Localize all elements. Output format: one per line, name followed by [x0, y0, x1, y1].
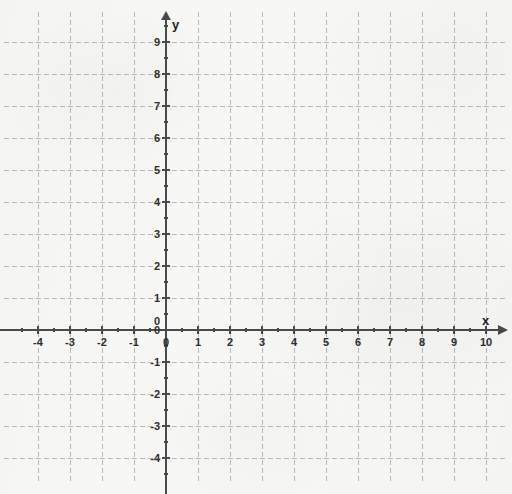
y-tick-label: -1 — [150, 357, 160, 368]
x-tick-label: -1 — [129, 337, 139, 348]
x-tick-label: 10 — [480, 337, 492, 348]
y-tick-label: -2 — [150, 389, 160, 400]
x-tick-label: -4 — [33, 337, 43, 348]
tick-labels-layer: x y -4-3-2-1012345678910-4-3-2-101234567… — [0, 0, 512, 494]
x-tick-label: 2 — [227, 337, 233, 348]
x-tick-label: 0 — [163, 337, 169, 348]
x-tick-label: 3 — [259, 337, 265, 348]
x-axis-label: x — [482, 314, 489, 327]
y-tick-label: 9 — [154, 37, 160, 48]
y-tick-label: 8 — [154, 69, 160, 80]
y-tick-label: 4 — [154, 197, 160, 208]
origin-label: 0 — [154, 316, 160, 327]
x-tick-label: 6 — [355, 337, 361, 348]
y-tick-label: 7 — [154, 101, 160, 112]
x-tick-label: 7 — [387, 337, 393, 348]
x-tick-label: 8 — [419, 337, 425, 348]
y-axis-label: y — [172, 18, 179, 31]
y-tick-label: 1 — [154, 293, 160, 304]
x-tick-label: 1 — [195, 337, 201, 348]
y-tick-label: 3 — [154, 229, 160, 240]
x-tick-label: 5 — [323, 337, 329, 348]
x-tick-label: 9 — [451, 337, 457, 348]
y-tick-label: -3 — [150, 421, 160, 432]
y-tick-label: 2 — [154, 261, 160, 272]
coordinate-grid-figure: x y -4-3-2-1012345678910-4-3-2-101234567… — [0, 0, 512, 494]
x-tick-label: -3 — [65, 337, 75, 348]
x-tick-label: -2 — [97, 337, 107, 348]
x-tick-label: 4 — [291, 337, 297, 348]
y-tick-label: -4 — [150, 453, 160, 464]
y-tick-label: 5 — [154, 165, 160, 176]
y-tick-label: 6 — [154, 133, 160, 144]
